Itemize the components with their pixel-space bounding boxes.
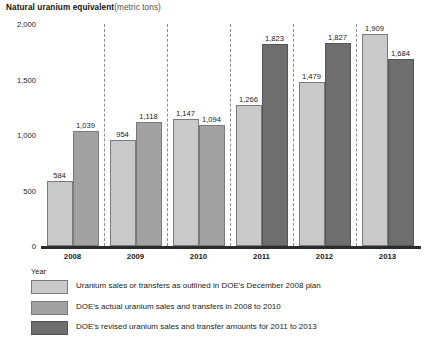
x-axis-tick-label-2011: 2011 bbox=[253, 252, 270, 261]
x-axis-title: Year bbox=[31, 267, 46, 276]
bar-revised-2011 bbox=[262, 44, 288, 246]
x-axis-tick-label-2009: 2009 bbox=[127, 252, 144, 261]
bar-value-label: 584 bbox=[53, 171, 66, 180]
group-divider bbox=[104, 24, 105, 246]
bar-plan-2009 bbox=[110, 140, 136, 246]
bar-value-label: 1,909 bbox=[365, 24, 384, 33]
group-divider bbox=[293, 24, 294, 246]
bar-value-label: 954 bbox=[116, 130, 129, 139]
group-divider bbox=[167, 24, 168, 246]
bar-plan-2010 bbox=[173, 119, 199, 246]
uranium-bar-chart: Natural uranium equivalent(metric tons) … bbox=[0, 0, 424, 344]
bar-value-label: 1,823 bbox=[265, 34, 284, 43]
bar-value-label: 1,266 bbox=[239, 95, 258, 104]
y-axis-tick-label: 500 bbox=[23, 186, 36, 195]
y-axis-tick-label: 2,000 bbox=[17, 20, 36, 29]
y-axis-tick-label: 1,000 bbox=[17, 131, 36, 140]
chart-title-unit: (metric tons) bbox=[114, 3, 161, 12]
y-axis-tick-label: 1,500 bbox=[17, 75, 36, 84]
x-axis-line bbox=[41, 246, 421, 249]
bar-value-label: 1,827 bbox=[328, 33, 347, 42]
x-axis-tick-label-2013: 2013 bbox=[379, 252, 396, 261]
bar-value-label: 1,094 bbox=[202, 115, 221, 124]
bar-plan-2012 bbox=[299, 82, 325, 246]
bar-actual-2009 bbox=[136, 122, 162, 246]
legend-label: Uranium sales or transfers as outlined i… bbox=[76, 281, 321, 290]
bar-value-label: 1,118 bbox=[139, 112, 157, 121]
bar-actual-2010 bbox=[199, 125, 225, 246]
bar-value-label: 1,684 bbox=[391, 49, 410, 58]
y-axis-tick-label: 0 bbox=[32, 242, 36, 251]
legend-swatch bbox=[31, 301, 68, 315]
group-divider bbox=[230, 24, 231, 246]
bar-value-label: 1,147 bbox=[176, 109, 195, 118]
chart-legend: Uranium sales or transfers as outlined i… bbox=[31, 279, 421, 341]
legend-label: DOE's actual uranium sales and transfers… bbox=[76, 302, 281, 311]
legend-item: DOE's actual uranium sales and transfers… bbox=[31, 300, 421, 321]
legend-item: Uranium sales or transfers as outlined i… bbox=[31, 279, 421, 300]
bar-value-label: 1,479 bbox=[302, 72, 321, 81]
x-axis-tick-label-2008: 2008 bbox=[64, 252, 81, 261]
bar-revised-2013 bbox=[388, 59, 414, 246]
bar-plan-2011 bbox=[236, 105, 262, 246]
bar-plan-2008 bbox=[47, 181, 73, 246]
bar-value-label: 1,039 bbox=[76, 121, 95, 130]
group-divider bbox=[356, 24, 357, 246]
legend-label: DOE's revised uranium sales and transfer… bbox=[76, 322, 317, 331]
legend-swatch bbox=[31, 321, 68, 335]
legend-swatch bbox=[31, 280, 68, 294]
legend-item: DOE's revised uranium sales and transfer… bbox=[31, 320, 421, 341]
bar-actual-2008 bbox=[73, 131, 99, 246]
bar-plan-2013 bbox=[362, 34, 388, 246]
bar-revised-2012 bbox=[325, 43, 351, 246]
x-axis-tick-label-2012: 2012 bbox=[316, 252, 333, 261]
x-axis-tick-label-2010: 2010 bbox=[190, 252, 207, 261]
